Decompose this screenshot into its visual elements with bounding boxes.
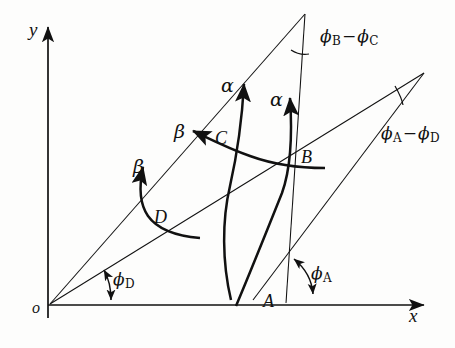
curve-label-alpha-left: α xyxy=(221,76,234,95)
ray-from-origin xyxy=(50,14,305,304)
diagram-vector-layer xyxy=(0,0,455,348)
phi-subscript-second: D xyxy=(430,131,440,145)
phi-glyph-first: ϕ xyxy=(381,123,393,143)
point-label-a: A xyxy=(263,292,274,310)
minus-glyph: − xyxy=(341,26,357,46)
angle-arc-phi-D xyxy=(104,270,111,300)
axis-label-y: y xyxy=(29,20,37,39)
phi-subscript-first: A xyxy=(393,131,402,145)
angle-label-phi-a: ϕA xyxy=(311,265,332,284)
phi-subscript: A xyxy=(323,271,332,285)
curve-label-beta-lower: β xyxy=(133,157,144,176)
alpha-curve-left xyxy=(224,84,244,300)
phi-subscript-second: C xyxy=(369,34,379,48)
beta-curve-lower xyxy=(140,167,200,238)
angle-arc-top-apex xyxy=(291,50,309,54)
curve-label-alpha-right: α xyxy=(270,90,283,109)
alpha-curve-right xyxy=(236,98,291,306)
phi-glyph: ϕ xyxy=(311,263,323,283)
point-label-b: B xyxy=(301,148,312,166)
angle-label-phi-a-minus-phi-d: ϕA−ϕD xyxy=(381,125,440,144)
axis-label-x: x xyxy=(409,306,417,325)
angle-label-phi-b-minus-phi-c: ϕB−ϕC xyxy=(320,28,378,47)
phi-glyph: ϕ xyxy=(113,269,125,289)
phi-subscript: D xyxy=(125,277,135,291)
phi-subscript-first: B xyxy=(332,34,341,48)
point-label-c: C xyxy=(215,129,227,147)
phi-glyph-first: ϕ xyxy=(320,26,332,46)
phi-glyph-second: ϕ xyxy=(357,26,369,46)
minus-glyph: − xyxy=(402,123,418,143)
curve-label-beta-upper: β xyxy=(174,122,185,141)
ray-origin-to-right-apex xyxy=(50,73,424,304)
diagram-canvas: y x o A B C D α α β β ϕA ϕD ϕB−ϕC ϕA−ϕD xyxy=(0,0,455,348)
point-label-d: D xyxy=(154,208,167,226)
axis-label-origin: o xyxy=(32,300,40,316)
angle-label-phi-d: ϕD xyxy=(113,271,135,290)
phi-glyph-second: ϕ xyxy=(418,123,430,143)
